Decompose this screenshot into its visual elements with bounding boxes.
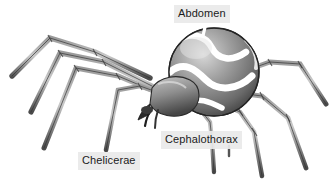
spider-illustration (0, 0, 334, 180)
spider-anatomy-figure: Abdomen Cephalothorax Chelicerae (0, 0, 334, 180)
label-cephalothorax: Cephalothorax (161, 131, 242, 149)
label-abdomen: Abdomen (174, 5, 230, 23)
spider-legs-left (12, 35, 168, 150)
leader-line-chelicerae (139, 128, 152, 150)
label-chelicerae: Chelicerae (78, 152, 140, 170)
